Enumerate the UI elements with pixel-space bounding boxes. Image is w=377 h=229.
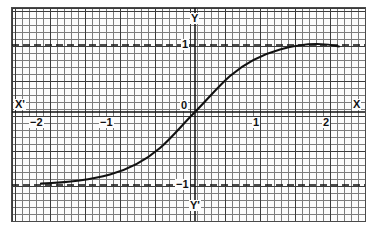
y-tick-label-neg1: −1 [175, 179, 190, 190]
y-axis-label: Y [190, 13, 199, 24]
x-axis-label: X [352, 99, 361, 110]
x-tick-label-pos2: 2 [322, 117, 330, 128]
y-negative-axis-label: Y' [189, 200, 201, 211]
origin-label: 0 [180, 100, 188, 111]
graph-figure: Y Y' X' X 0 −2 −1 1 2 1 −1 [0, 0, 377, 229]
y-tick-label-pos1: 1 [181, 39, 189, 50]
x-negative-axis-label: X' [14, 99, 26, 110]
x-tick-label-neg2: −2 [29, 117, 44, 128]
x-tick-label-neg1: −1 [99, 117, 114, 128]
x-tick-label-pos1: 1 [252, 117, 260, 128]
